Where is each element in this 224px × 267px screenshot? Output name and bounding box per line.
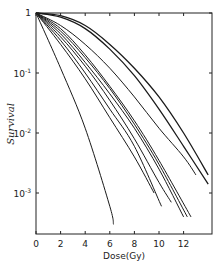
survival-curve — [36, 13, 162, 206]
y-axis-ticks: 110-110-210-3 — [14, 8, 212, 199]
x-axis-title: Dose(Gy) — [103, 251, 145, 261]
x-tick-label: 12 — [178, 239, 189, 249]
y-axis-title: Survival — [5, 103, 16, 145]
x-tick-label: 0 — [33, 239, 39, 249]
survival-curve — [36, 13, 154, 193]
y-tick-label: 10-2 — [14, 127, 32, 139]
x-tick-label: 2 — [58, 239, 64, 249]
curves — [36, 13, 208, 224]
y-tick-label: 1 — [25, 8, 31, 18]
survival-curve — [36, 13, 187, 217]
survival-curve — [36, 13, 208, 175]
survival-chart: 024681012 110-110-210-3 Dose(Gy) Surviva… — [0, 0, 224, 267]
x-tick-label: 4 — [82, 239, 88, 249]
x-tick-label: 8 — [132, 239, 138, 249]
y-tick-label: 10-3 — [14, 187, 32, 199]
x-tick-label: 10 — [153, 239, 165, 249]
survival-curve — [36, 13, 114, 224]
y-tick-label: 10-1 — [14, 67, 32, 79]
x-axis-ticks: 024681012 — [33, 13, 189, 249]
x-tick-label: 6 — [107, 239, 113, 249]
